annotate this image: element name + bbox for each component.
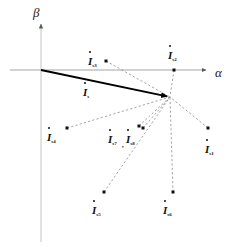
dashed-connector-i-s3 — [106, 61, 170, 97]
dashed-connector-i-s8 — [143, 97, 170, 128]
phasor-subscript: s3 — [92, 63, 96, 68]
vector-diagram-figure: β α IsIs3Is2Is4Is7Is8Is1Is5Is6, — [0, 0, 237, 248]
data-point-dot-i-s7 — [138, 125, 141, 128]
phasor-symbol: I — [92, 205, 96, 216]
vector-label-i-s5: Is5 — [92, 201, 101, 217]
beta-axis-label: β — [33, 6, 39, 19]
phasor-symbol: I — [126, 134, 130, 145]
phasor-subscript: s6 — [167, 212, 171, 217]
dashed-connector-i-s1 — [170, 97, 208, 128]
dashed-connector-i-s4 — [67, 97, 170, 128]
phasor-subscript: s — [87, 94, 89, 99]
phasor-symbol: I — [88, 56, 92, 67]
phasor-dot-icon — [164, 200, 166, 202]
phasor-dot-icon — [93, 200, 95, 202]
phasor-subscript: s8 — [130, 141, 134, 146]
phasor-subscript: s7 — [112, 141, 116, 146]
phasor-subscript: s5 — [96, 212, 100, 217]
phasor-symbol: I — [205, 144, 209, 155]
vector-label-i-s4: Is4 — [47, 128, 56, 144]
separator-glyph: , — [122, 141, 124, 149]
phasor-dot-icon — [109, 129, 111, 131]
data-point-dot-i-s1 — [207, 127, 210, 130]
phasor-symbol: I — [83, 87, 87, 98]
diagram-canvas — [0, 0, 237, 248]
phasor-symbol: I — [47, 132, 51, 143]
data-point-dot-i-s8 — [142, 127, 145, 130]
data-point-dot-i-s6 — [172, 191, 175, 194]
phasor-subscript: s1 — [209, 151, 213, 156]
phasor-dot-icon — [127, 129, 129, 131]
vector-label-i-s2: Is2 — [168, 46, 177, 62]
phasor-dot-icon — [48, 127, 50, 129]
data-point-dot-i-s5 — [103, 191, 106, 194]
data-point-dot-i-s2 — [173, 69, 176, 72]
phasor-dot-icon — [89, 51, 91, 53]
phasor-symbol: I — [168, 50, 172, 61]
phasor-symbol: I — [163, 205, 167, 216]
phasor-subscript: s4 — [51, 139, 55, 144]
alpha-axis-label: α — [215, 66, 222, 79]
phasor-symbol: I — [108, 134, 112, 145]
phasor-dot-icon — [169, 45, 171, 47]
data-point-dot-i-s4 — [66, 127, 69, 130]
phasor-dot-icon — [84, 82, 86, 84]
vector-label-is: Is — [83, 83, 89, 99]
phasor-dot-icon — [206, 139, 208, 141]
vector-label-i-s6: Is6 — [163, 201, 172, 217]
label-separator-0: , — [122, 134, 124, 150]
phasor-subscript: s2 — [172, 57, 176, 62]
vector-label-i-s3: Is3 — [88, 52, 97, 68]
data-point-dot-i-s3 — [105, 60, 108, 63]
main-vector-group — [41, 70, 167, 96]
vector-label-i-s8: Is8 — [126, 130, 135, 146]
main-vector-is — [41, 70, 167, 96]
dashed-connector-i-s2 — [170, 70, 174, 97]
dashed-connector-i-s6 — [170, 97, 173, 192]
vector-label-i-s7: Is7 — [108, 130, 117, 146]
dashed-connector-i-s7 — [139, 97, 170, 126]
vector-label-i-s1: Is1 — [205, 140, 214, 156]
